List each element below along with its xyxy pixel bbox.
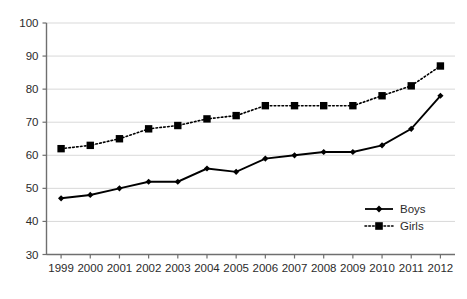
x-axis-tick-label: 2008 (311, 262, 337, 274)
y-axis-tick-label: 40 (26, 215, 39, 227)
legend-girls-label: Girls (400, 220, 424, 232)
x-axis-tick-label: 2010 (369, 262, 395, 274)
y-axis-tick-label: 80 (26, 83, 39, 95)
x-axis-tick-label: 2000 (77, 262, 103, 274)
y-axis-tick-label: 70 (26, 116, 39, 128)
x-axis-tick-label: 2004 (194, 262, 220, 274)
y-axis-tick-label: 50 (26, 182, 39, 194)
data-point-marker (174, 122, 181, 129)
data-point-marker (437, 62, 444, 69)
line-chart: 30405060708090100 1999200020012002200320… (0, 0, 467, 299)
data-point-marker (232, 112, 239, 119)
data-point-marker (203, 115, 210, 122)
y-axis-tick-label: 100 (19, 17, 38, 29)
data-point-marker (262, 102, 269, 109)
x-axis-tick-label: 2012 (428, 262, 454, 274)
data-point-marker (378, 92, 385, 99)
x-axis-tick-label: 2006 (253, 262, 279, 274)
data-point-marker (116, 135, 123, 142)
x-axis-tick-label: 1999 (48, 262, 74, 274)
data-point-marker (320, 102, 327, 109)
data-point-marker (291, 102, 298, 109)
y-axis-tick-label: 60 (26, 149, 39, 161)
x-axis-tick-label: 2001 (107, 262, 133, 274)
data-point-marker (57, 145, 64, 152)
x-axis-tick-label: 2007 (282, 262, 308, 274)
chart-canvas: 30405060708090100 1999200020012002200320… (0, 0, 467, 299)
legend-girls-marker-swatch (375, 222, 383, 230)
x-axis-tick-label: 2011 (399, 262, 424, 274)
data-point-marker (349, 102, 356, 109)
x-axis-tick-label: 2005 (223, 262, 249, 274)
data-point-marker (87, 142, 94, 149)
x-axis-tick-label: 2009 (340, 262, 366, 274)
data-point-marker (145, 125, 152, 132)
x-axis-tick-label: 2003 (165, 262, 191, 274)
x-axis-tick-label: 2002 (136, 262, 162, 274)
legend-boys-label: Boys (400, 203, 426, 215)
y-axis-tick-label: 90 (26, 50, 39, 62)
data-point-marker (408, 82, 415, 89)
y-axis-tick-label: 30 (26, 249, 39, 261)
